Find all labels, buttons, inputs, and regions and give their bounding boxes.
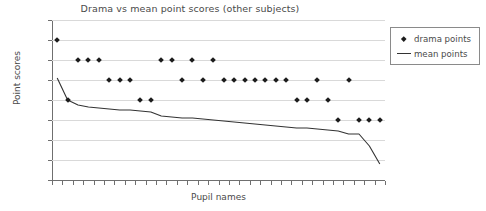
chart-title: Drama vs mean point scores (other subjec… [0,3,380,14]
diamond-marker-icon [394,37,414,41]
x-tick-mark [260,181,261,185]
x-tick-mark [271,181,272,185]
legend-item-mean-points: mean points [394,46,477,61]
legend-label-mean-points: mean points [414,49,468,59]
x-tick-mark [323,181,324,185]
x-tick-mark [135,181,136,185]
x-tick-mark [177,181,178,185]
x-tick-mark [156,181,157,185]
x-tick-mark [125,181,126,185]
x-tick-mark [375,181,376,185]
x-tick-mark [229,181,230,185]
x-tick-mark [208,181,209,185]
x-tick-mark [62,181,63,185]
x-tick-mark [312,181,313,185]
x-tick-mark [219,181,220,185]
plot-area: 876543210 [52,20,385,180]
legend-label-drama-points: drama points [414,34,471,44]
y-axis-title: Point scores [12,33,22,123]
x-axis-title: Pupil names [52,192,385,202]
x-tick-mark [354,181,355,185]
x-tick-mark [166,181,167,185]
x-tick-mark [83,181,84,185]
x-tick-mark [333,181,334,185]
x-tick-mark [239,181,240,185]
x-tick-mark [302,181,303,185]
x-tick-mark [187,181,188,185]
x-tick-mark [250,181,251,185]
x-tick-mark [385,181,386,185]
x-tick-mark [198,181,199,185]
legend-item-drama-points: drama points [394,31,477,46]
x-tick-mark [364,181,365,185]
x-tick-mark [73,181,74,185]
x-tick-mark [281,181,282,185]
chart-legend: drama points mean points [390,27,480,65]
x-tick-mark [146,181,147,185]
chart-container: Drama vs mean point scores (other subjec… [0,0,486,211]
x-tick-mark [52,181,53,185]
mean-points-line [52,20,385,180]
x-tick-mark [104,181,105,185]
line-marker-icon [394,53,414,55]
x-tick-mark [343,181,344,185]
x-tick-mark [94,181,95,185]
x-tick-mark [114,181,115,185]
x-tick-mark [291,181,292,185]
